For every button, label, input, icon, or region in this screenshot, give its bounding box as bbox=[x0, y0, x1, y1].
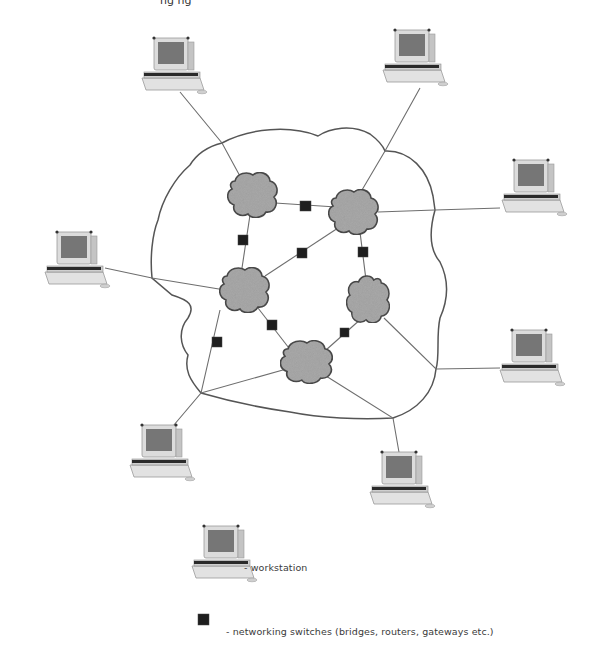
switch-icon bbox=[238, 235, 248, 245]
link-ws-right bbox=[378, 208, 500, 212]
network-cloud-d bbox=[347, 276, 390, 323]
link-ws-bottom-right bbox=[326, 376, 400, 458]
links bbox=[105, 88, 500, 458]
legend-switch-label: - networking switches (bridges, routers,… bbox=[226, 626, 494, 637]
link-ws-right-lower bbox=[384, 318, 500, 369]
workstation-icon bbox=[45, 230, 110, 287]
link-ws-bottom-left bbox=[168, 310, 220, 432]
link-ws-left bbox=[105, 268, 225, 290]
legend bbox=[192, 524, 257, 625]
workstation-icon bbox=[383, 28, 448, 85]
legend-workstation-label: - workstation bbox=[244, 562, 307, 573]
network-cloud-e bbox=[280, 341, 332, 384]
link-ws-top-right bbox=[362, 88, 420, 190]
switch-icon bbox=[267, 320, 277, 330]
workstation-icon bbox=[370, 450, 435, 507]
workstation-icon bbox=[142, 36, 207, 93]
legend-switch-icon bbox=[198, 614, 209, 625]
switch-icon bbox=[297, 248, 307, 258]
workstation-icon bbox=[502, 158, 567, 215]
legend-workstation-icon bbox=[192, 524, 257, 581]
network-cloud-b bbox=[329, 190, 378, 235]
network-cloud-c bbox=[220, 268, 269, 313]
switch-icon bbox=[340, 328, 349, 337]
switch-icon bbox=[358, 247, 368, 257]
switch-icon bbox=[300, 201, 311, 211]
link-bl-to-e bbox=[201, 368, 290, 393]
workstation-icon bbox=[130, 423, 195, 480]
workstation-icon bbox=[500, 328, 565, 385]
network-cloud-a bbox=[228, 173, 277, 218]
switch-icon bbox=[212, 337, 222, 347]
workstations bbox=[45, 28, 567, 507]
